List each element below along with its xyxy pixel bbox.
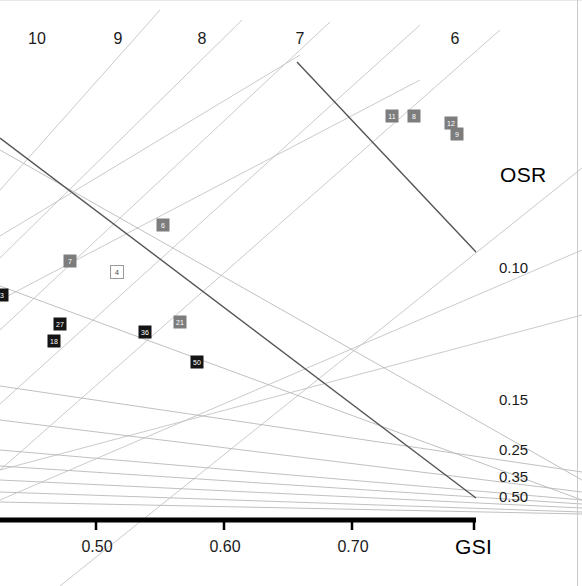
isopleth-ascending-7 bbox=[60, 168, 582, 586]
isopleth-descending-2 bbox=[0, 386, 582, 472]
highlight-lines bbox=[0, 62, 476, 498]
data-point-gray-markers: 7 bbox=[64, 255, 77, 268]
isopleth-descending-4 bbox=[0, 450, 582, 500]
data-point-gray-markers: 8 bbox=[408, 110, 421, 123]
marker-label: 9 bbox=[455, 131, 459, 138]
figure-right-border bbox=[577, 0, 578, 586]
isopleth-ascending-6 bbox=[0, 80, 420, 300]
isopleth-ascending-1 bbox=[0, 20, 242, 258]
marker-label: 6 bbox=[161, 222, 165, 229]
plot-area: 11812967212718365034 bbox=[0, 0, 582, 586]
marker-label: 36 bbox=[141, 329, 149, 336]
marker-label: 18 bbox=[50, 338, 58, 345]
y-tick-label-010: 0.10 bbox=[499, 259, 528, 276]
isopleth-ascending-8 bbox=[0, 250, 582, 500]
isopleth-descending-7 bbox=[0, 492, 582, 512]
top-tick-label-6: 6 bbox=[440, 30, 470, 48]
isopleth-ascending-9 bbox=[0, 315, 582, 470]
top-tick-label-9: 9 bbox=[103, 30, 133, 48]
highlight-line-1 bbox=[297, 62, 476, 252]
isopleth-ascending-4 bbox=[0, 30, 500, 470]
data-point-gray-markers: 9 bbox=[451, 128, 464, 141]
x-tick-label-060: 0.60 bbox=[199, 538, 251, 556]
y-tick-label-025: 0.25 bbox=[499, 441, 528, 458]
data-point-black-markers: 3 bbox=[0, 289, 9, 302]
data-point-open-markers: 4 bbox=[111, 266, 124, 279]
marker-label: 11 bbox=[388, 113, 395, 120]
top-tick-label-7: 7 bbox=[285, 30, 315, 48]
marker-label: 8 bbox=[412, 113, 416, 120]
axis-lines bbox=[0, 518, 476, 530]
isopleth-ascending-5 bbox=[0, 55, 300, 236]
data-point-gray-markers: 11 bbox=[386, 110, 399, 123]
data-point-gray-markers: 6 bbox=[157, 219, 170, 232]
data-point-black-markers: 36 bbox=[139, 326, 152, 339]
data-point-markers: 11812967212718365034 bbox=[0, 110, 464, 369]
marker-label: 3 bbox=[0, 292, 4, 299]
data-point-black-markers: 18 bbox=[48, 335, 61, 348]
x-tick-label-050: 0.50 bbox=[71, 538, 123, 556]
data-point-black-markers: 27 bbox=[54, 318, 67, 331]
chart-figure: 11812967212718365034 10 9 8 7 6 0.50 0.6… bbox=[0, 0, 582, 586]
marker-label: 27 bbox=[56, 321, 64, 328]
marker-label: 21 bbox=[176, 319, 184, 326]
marker-label: 7 bbox=[68, 258, 72, 265]
marker-label: 50 bbox=[193, 359, 201, 366]
marker-label: 12 bbox=[447, 120, 455, 127]
top-tick-label-10: 10 bbox=[22, 30, 52, 48]
data-point-gray-markers: 21 bbox=[174, 316, 187, 329]
top-tick-label-8: 8 bbox=[187, 30, 217, 48]
y-tick-label-050: 0.50 bbox=[499, 488, 528, 505]
y-tick-label-035: 0.35 bbox=[499, 468, 528, 485]
y-tick-label-015: 0.15 bbox=[499, 391, 528, 408]
osr-axis-title: OSR bbox=[500, 163, 546, 187]
data-point-black-markers: 50 bbox=[191, 356, 204, 369]
ascending-isopleth-lines bbox=[0, 10, 582, 586]
isopleth-descending-5 bbox=[0, 466, 582, 504]
isopleth-ascending-3 bbox=[0, 25, 420, 404]
marker-label: 4 bbox=[115, 269, 119, 276]
x-tick-label-070: 0.70 bbox=[327, 538, 379, 556]
gsi-axis-title: GSI bbox=[455, 535, 492, 559]
